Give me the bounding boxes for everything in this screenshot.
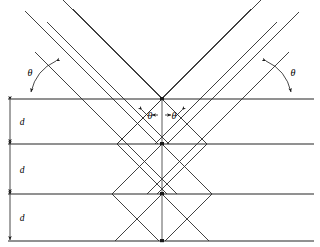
vertex-apex-1 xyxy=(160,142,164,145)
l3-left-down-a xyxy=(115,194,162,241)
angle-apex-right-label: θ xyxy=(172,110,177,121)
l1-right-down-b xyxy=(197,99,242,144)
thickness-label-1: d xyxy=(20,117,25,127)
ray-diagram-figure: θ θ θ θ d d d xyxy=(0,0,320,247)
vertex-apex-2 xyxy=(160,192,164,195)
vertex-apex-3 xyxy=(160,239,164,242)
incoming-ray-4 xyxy=(40,0,162,99)
thickness-label-2: d xyxy=(20,165,25,175)
interface-lines xyxy=(8,99,314,241)
l3-left-down-b xyxy=(112,194,159,241)
angle-right-arc xyxy=(266,61,291,92)
thickness-dimensions: d d d xyxy=(10,100,25,240)
l2-right-down-b xyxy=(157,144,207,194)
angle-right-label: θ xyxy=(291,67,296,78)
apex-right-arrow xyxy=(176,110,182,116)
l1-left-up-a xyxy=(117,99,162,144)
angle-apex-left-label: θ xyxy=(148,110,153,121)
l1-right-down-a xyxy=(162,99,207,144)
incoming-ray-2b xyxy=(47,22,124,99)
angle-left-label: θ xyxy=(28,67,33,78)
diagram-canvas: θ θ θ θ d d d xyxy=(0,0,320,247)
l3-right-down-a xyxy=(162,194,209,241)
incoming-ray-0 xyxy=(35,52,82,99)
outgoing-ray-1b xyxy=(161,9,251,99)
incoming-rays xyxy=(25,0,163,99)
incoming-ray-1b xyxy=(73,9,163,99)
outgoing-ray-4 xyxy=(162,0,284,99)
vertex-apex-0 xyxy=(160,97,164,100)
l2-left-down-b xyxy=(117,144,167,194)
angle-right-annotation: θ xyxy=(266,61,296,92)
outgoing-rays xyxy=(161,0,299,99)
outgoing-ray-0 xyxy=(242,52,289,99)
l1-right-down-c xyxy=(167,99,212,144)
angle-left-arc xyxy=(31,61,56,92)
thickness-label-3: d xyxy=(20,213,25,223)
outgoing-ray-2b xyxy=(200,22,277,99)
l3-right-down-b xyxy=(165,194,212,241)
angle-left-annotation: θ xyxy=(28,61,56,92)
